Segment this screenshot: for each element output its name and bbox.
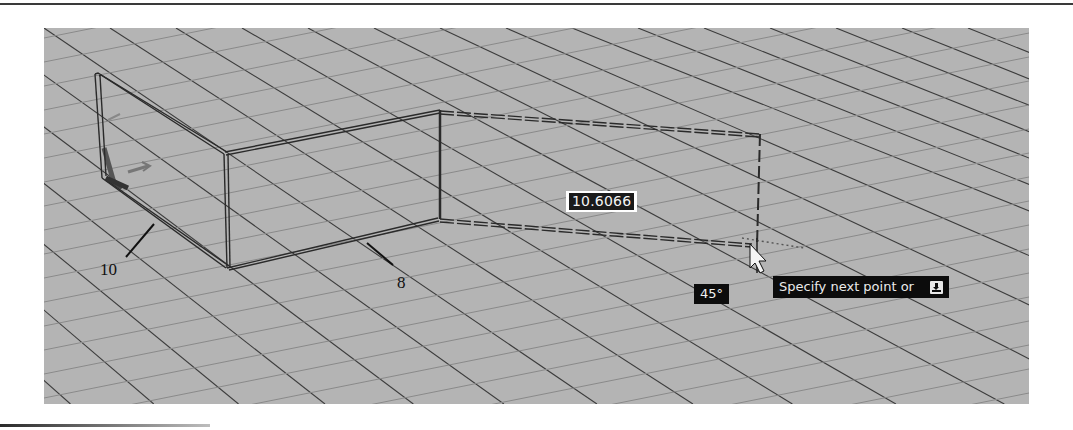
polyline-geometry [44, 28, 1029, 404]
middle-wall-segment [224, 110, 440, 270]
dynamic-length-input[interactable]: 10.6066 [566, 191, 637, 212]
callout-leaders [126, 224, 393, 265]
bottom-divider [0, 424, 210, 427]
ucs-icon [104, 114, 150, 188]
length-value: 10.6066 [569, 193, 634, 210]
down-arrow-options-icon[interactable] [930, 281, 943, 294]
drawing-viewport[interactable]: 10.6066 45° Specify next point or 10 8 [44, 28, 1029, 404]
prompt-text: Specify next point or [779, 276, 914, 298]
command-prompt-tooltip: Specify next point or [773, 276, 949, 298]
angle-tooltip: 45° [694, 284, 729, 304]
mouse-cursor-icon [750, 244, 766, 273]
top-divider [0, 3, 1073, 5]
callout-label-10: 10 [100, 261, 117, 279]
figure-page: 10.6066 45° Specify next point or 10 8 [0, 0, 1073, 430]
callout-label-8: 8 [397, 274, 406, 292]
left-wall-segment [95, 73, 229, 268]
